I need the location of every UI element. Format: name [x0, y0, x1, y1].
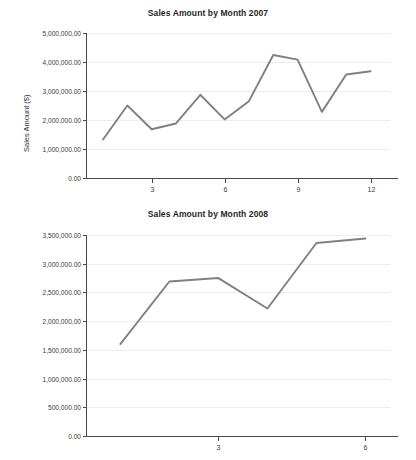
y-tick-label: 3,000,000.00 — [42, 261, 81, 268]
y-tick-label: 5,000,000.00 — [42, 30, 81, 37]
x-tick-label: 3 — [217, 444, 221, 451]
charts-page: Sales Amount by Month 2007 Sales Amount … — [0, 0, 416, 460]
y-tick-label: 4,000,000.00 — [42, 59, 81, 66]
x-tick-label: 9 — [297, 186, 301, 193]
data-series-line — [103, 55, 371, 139]
y-tick-label: 2,500,000.00 — [42, 289, 81, 296]
plot-area-2008: 0.00500,000.001,000,000.001,500,000.002,… — [0, 200, 416, 460]
y-tick-label: 0.00 — [68, 433, 81, 440]
x-tick-label: 12 — [368, 186, 376, 193]
y-tick-label: 3,500,000.00 — [42, 232, 81, 239]
chart-sales-amount-2007: Sales Amount by Month 2007 Sales Amount … — [0, 0, 416, 200]
y-tick-label: 2,000,000.00 — [42, 318, 81, 325]
x-tick-label: 6 — [364, 444, 368, 451]
y-tick-label: 1,000,000.00 — [42, 146, 81, 153]
y-tick-label: 3,000,000.00 — [42, 88, 81, 95]
y-tick-label: 1,000,000.00 — [42, 376, 81, 383]
y-tick-label: 2,000,000.00 — [42, 117, 81, 124]
y-tick-label: 0.00 — [68, 175, 81, 182]
data-series-line — [120, 238, 365, 344]
y-tick-label: 1,500,000.00 — [42, 347, 81, 354]
x-tick-label: 3 — [151, 186, 155, 193]
y-tick-label: 500,000.00 — [48, 404, 81, 411]
chart-sales-amount-2008: Sales Amount by Month 2008 Sales Amount … — [0, 200, 416, 460]
plot-area-2007: 0.001,000,000.002,000,000.003,000,000.00… — [0, 0, 416, 200]
x-tick-label: 6 — [224, 186, 228, 193]
